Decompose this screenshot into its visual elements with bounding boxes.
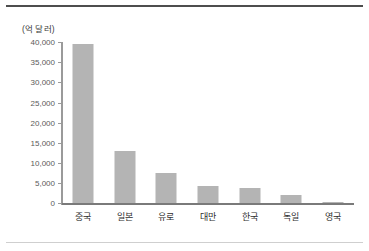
bar-slot (271, 42, 313, 203)
y-tick-label: 15,000 (31, 138, 55, 147)
x-category-label: 한국 (242, 210, 258, 223)
y-tick-label: 30,000 (31, 78, 55, 87)
bar (197, 186, 218, 203)
bar-series (62, 42, 354, 203)
x-category-label: 유로 (158, 210, 174, 223)
bar (323, 202, 344, 203)
y-axis-unit-label: (억 달러) (22, 22, 55, 34)
x-category-label: 영국 (325, 210, 341, 223)
figure-top-rule (6, 5, 363, 7)
y-tick-label: 25,000 (31, 98, 55, 107)
y-tick-label: 35,000 (31, 58, 55, 67)
plot-area: 05,00010,00015,00020,00025,00030,00035,0… (62, 42, 354, 205)
y-tick-label: 0 (51, 199, 55, 208)
x-category-label: 대만 (200, 210, 216, 223)
x-category-label: 중국 (75, 210, 91, 223)
bar-slot (145, 42, 187, 203)
x-axis-category-labels: 중국일본유로대만한국독일영국 (62, 210, 354, 228)
y-tick-mark (58, 203, 62, 204)
y-tick-label: 5,000 (35, 179, 55, 188)
figure-bottom-rule (6, 242, 363, 243)
bar-slot (187, 42, 229, 203)
y-tick-label: 10,000 (31, 159, 55, 168)
y-tick-label: 40,000 (31, 38, 55, 47)
chart-figure: (억 달러) 05,00010,00015,00020,00025,00030,… (0, 0, 369, 251)
bar (114, 151, 135, 203)
bar (281, 195, 302, 203)
bar-slot (104, 42, 146, 203)
x-axis-line (62, 203, 354, 205)
bar (156, 173, 177, 204)
bar (72, 44, 93, 203)
bar-slot (62, 42, 104, 203)
bar-slot (229, 42, 271, 203)
bar-slot (312, 42, 354, 203)
y-tick-label: 20,000 (31, 118, 55, 127)
x-category-label: 일본 (117, 210, 133, 223)
bar (239, 188, 260, 204)
x-category-label: 독일 (283, 210, 299, 223)
